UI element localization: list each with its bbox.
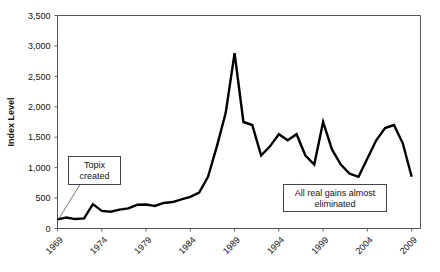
annotation-gains-line2: eliminated [314, 199, 355, 209]
annotation-topix-line2: created [79, 171, 109, 181]
y-tick-label-2,000: 2,000 [28, 102, 51, 112]
y-tick-label-3,500: 3,500 [28, 11, 51, 21]
y-tick-label-0: 0 [45, 224, 50, 234]
y-tick-label-500: 500 [35, 193, 50, 203]
annotation-gains-line1: All real gains almost [295, 188, 376, 198]
y-tick-label-1,000: 1,000 [28, 163, 51, 173]
y-tick-label-1,500: 1,500 [28, 132, 51, 142]
annotation-gains-eliminated: All real gains almost eliminated [284, 185, 387, 212]
index-level-line-chart: 05001,0001,5002,0002,5003,0003,500 19691… [0, 0, 440, 272]
chart-container: 05001,0001,5002,0002,5003,0003,500 19691… [0, 0, 440, 272]
y-axis-title: Index Level [6, 97, 16, 146]
annotation-topix-line1: Topix [84, 160, 106, 170]
y-tick-label-3,000: 3,000 [28, 41, 51, 51]
y-tick-label-2,500: 2,500 [28, 72, 51, 82]
